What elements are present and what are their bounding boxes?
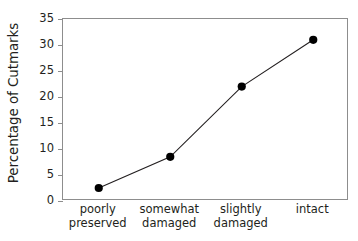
y-tick-mark [58, 97, 63, 98]
y-axis-title: Percentage of Cutmarks [5, 22, 21, 182]
y-tick-mark [58, 175, 63, 176]
x-tick-label-line: damaged [214, 217, 268, 231]
y-tick-label: 5 [47, 167, 54, 181]
y-tick-label: 30 [39, 37, 54, 51]
y-axis-tick-labels: 05101520253035 [26, 12, 56, 206]
y-tick-mark [58, 123, 63, 124]
y-tick-label: 10 [39, 141, 54, 155]
x-tick-label: somewhatdamaged [139, 203, 199, 230]
y-tick-mark [58, 19, 63, 20]
x-tick-label-line: preserved [69, 217, 127, 231]
y-tick-label: 15 [39, 115, 54, 129]
series-line [99, 40, 314, 188]
x-axis-category-labels: poorlypreservedsomewhatdamagedslightlyda… [62, 203, 348, 241]
y-tick-label: 20 [39, 89, 54, 103]
x-tick-label-line: intact [296, 203, 329, 217]
x-tick-label-line: damaged [139, 217, 199, 231]
data-point-marker [166, 153, 174, 161]
y-tick-label: 0 [47, 193, 54, 207]
x-tick-label: poorlypreserved [69, 203, 127, 230]
plot-area [62, 18, 348, 200]
x-tick-label: intact [296, 203, 329, 217]
data-point-marker [309, 36, 317, 44]
chart-figure: Percentage of Cutmarks 05101520253035 po… [0, 0, 358, 241]
y-tick-label: 35 [39, 11, 54, 25]
x-tick-label-line: slightly [214, 203, 268, 217]
y-tick-mark [58, 149, 63, 150]
y-tick-mark [58, 71, 63, 72]
x-tick-label-line: poorly [69, 203, 127, 217]
y-tick-mark [58, 45, 63, 46]
line-series-svg [63, 19, 349, 201]
y-axis-title-container: Percentage of Cutmarks [0, 0, 26, 205]
data-point-marker [238, 83, 246, 91]
data-point-marker [95, 184, 103, 192]
y-tick-label: 25 [39, 63, 54, 77]
x-tick-label-line: somewhat [139, 203, 199, 217]
y-tick-mark [58, 201, 63, 202]
x-tick-label: slightlydamaged [214, 203, 268, 230]
